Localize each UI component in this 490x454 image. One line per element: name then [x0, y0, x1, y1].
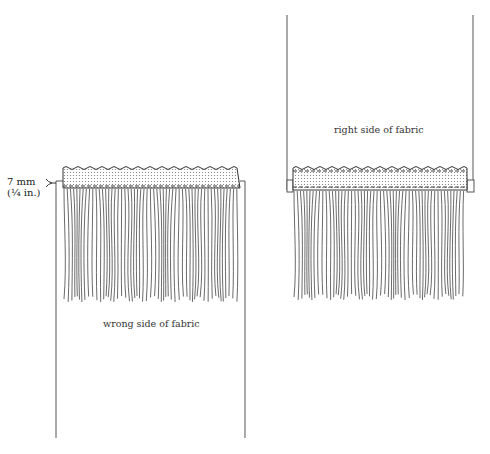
left-fringe-strands	[64, 189, 238, 302]
measurement-imperial: (¼ in.)	[7, 187, 41, 198]
right-fringe-strands	[294, 191, 464, 300]
fringe-diagram	[0, 0, 490, 454]
right-fringe-tape	[293, 167, 467, 191]
right-panel-caption: right side of fabric	[334, 124, 424, 135]
measurement-bracket-icon	[46, 179, 56, 187]
measurement-label: 7 mm (¼ in.)	[7, 176, 41, 198]
left-fringe-tape	[63, 167, 240, 189]
left-panel-caption: wrong side of fabric	[103, 318, 200, 329]
right-fabric-outline	[287, 15, 474, 192]
measurement-metric: 7 mm	[7, 176, 41, 187]
